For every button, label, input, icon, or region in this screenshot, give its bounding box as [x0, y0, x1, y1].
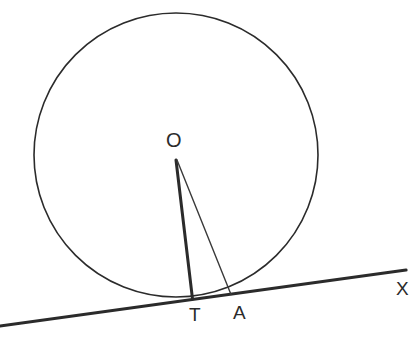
point-label-x: X: [396, 279, 409, 298]
point-label-t: T: [189, 305, 201, 324]
point-label-o: O: [166, 130, 182, 150]
circle-shape: [34, 13, 318, 297]
geometry-canvas: [0, 0, 419, 338]
geometry-figure: O T A X: [0, 0, 419, 338]
point-label-a: A: [233, 303, 246, 322]
tangent-line: [0, 270, 406, 326]
radius-segment-OT: [176, 160, 193, 299]
